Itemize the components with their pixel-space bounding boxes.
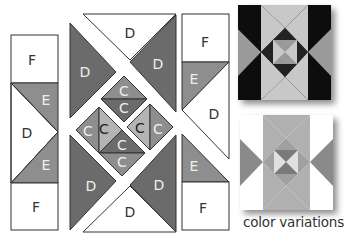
label-c-7: C [135, 120, 145, 136]
label-c-6: C [117, 154, 127, 170]
label-right-top-e: E [190, 71, 199, 87]
color-variation-dark [238, 5, 331, 100]
label-right-bottom-f: F [199, 200, 207, 216]
quilt-pattern-diagram: F E D E F D D D D D D [0, 0, 348, 241]
label-left-bottom-e: E [42, 157, 51, 173]
label-right-middle-d: D [209, 106, 220, 122]
label-c-1: C [119, 83, 129, 99]
label-c-2: C [119, 100, 129, 116]
label-right-bottom-e: E [190, 158, 199, 174]
label-left-middle-d: D [22, 125, 33, 141]
label-center-upper-left-d: D [80, 64, 91, 80]
label-right-top-f: F [201, 34, 209, 50]
label-center-top-d: D [125, 25, 136, 41]
label-c-5: C [117, 137, 127, 153]
color-variations-caption: color variations [243, 214, 344, 230]
label-c-8: C [153, 121, 163, 137]
label-c-4: C [99, 121, 109, 137]
label-left-bottom-f: F [32, 199, 40, 215]
label-center-lower-right-d: D [154, 177, 165, 193]
label-left-top-e: E [42, 92, 51, 108]
label-c-3: C [83, 123, 93, 139]
color-variation-gray [240, 115, 333, 210]
label-center-bottom-d: D [125, 204, 136, 220]
label-center-lower-left-d: D [86, 178, 97, 194]
label-center-upper-right-d: D [153, 56, 164, 72]
label-left-top-f: F [28, 52, 36, 68]
